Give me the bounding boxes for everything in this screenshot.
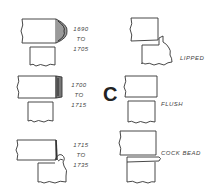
label-lipped: LIPPED — [180, 55, 204, 61]
date-until: 1715 — [68, 100, 90, 110]
profile-lipped — [130, 18, 172, 65]
date-until: 1705 — [70, 44, 92, 54]
date-until: 1735 — [70, 160, 92, 170]
profile-cock-bead — [119, 131, 161, 183]
date-to-word: TO — [70, 34, 92, 44]
label-cock-bead: COCK BEAD — [161, 150, 201, 156]
date-range-2: 1700 TO 1715 — [68, 80, 90, 110]
date-from: 1700 — [68, 80, 90, 90]
date-to-word: TO — [70, 150, 92, 160]
section-letter: C — [103, 83, 117, 106]
profile-1700-1715 — [17, 76, 62, 122]
date-range-3: 1715 TO 1735 — [70, 140, 92, 170]
date-range-1: 1690 TO 1705 — [70, 24, 92, 54]
date-to-word: TO — [68, 90, 90, 100]
profile-1690-1705 — [21, 19, 67, 66]
label-flush: FLUSH — [161, 101, 183, 107]
date-from: 1690 — [70, 24, 92, 34]
date-from: 1715 — [70, 140, 92, 150]
profile-flush — [124, 76, 157, 123]
profile-1715-1735 — [16, 140, 67, 183]
